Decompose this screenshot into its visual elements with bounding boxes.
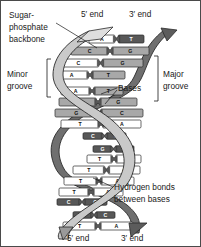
major-groove-line1: Major [163, 69, 184, 79]
label-minor-groove: Minor groove [7, 59, 51, 97]
base-pair: CG [58, 59, 143, 67]
base-letter: A [74, 88, 78, 94]
base-letter: A [120, 121, 124, 127]
dna-diagram-svg: ATCGCGATATCGGCTACGGCTATATATACGGCTA Sugar… [1, 1, 200, 246]
hydrogen-bond [79, 199, 85, 204]
hydrogen-bond [101, 133, 107, 138]
label-major-groove: Major groove [154, 56, 189, 101]
label-five-prime-end-bottom: 5′ end [67, 233, 90, 243]
sugar-phosphate-line2: phosphate [9, 22, 48, 32]
base-letter: C [88, 48, 92, 54]
hydrogen-bond [111, 156, 117, 163]
base-letter: C [77, 60, 81, 66]
base-letter: G [116, 99, 120, 105]
hydrogen-bond [110, 146, 116, 151]
sugar-phosphate-line3: backbone [9, 34, 45, 44]
label-five-prime-end-top: 5′ end [81, 9, 104, 19]
hydrogen-bond [89, 88, 95, 95]
minor-groove-line1: Minor [7, 69, 28, 79]
bases-text: Bases [118, 83, 141, 93]
hydrogen-bonds-line1: Hydrogen bonds [114, 182, 175, 192]
hydrogen-bond [113, 36, 119, 43]
hydrogen-bond [95, 223, 101, 230]
hydrogen-bond [107, 48, 113, 55]
hydrogen-bond [91, 212, 97, 217]
dna-helix-figure: ATCGCGATATCGGCTACGGCTATATATACGGCTA Sugar… [0, 0, 201, 247]
base-letter: C [67, 199, 71, 205]
base-letter: A [70, 72, 74, 78]
sugar-phosphate-line1: Sugar- [9, 10, 34, 20]
hydrogen-bonds-line2: between bases [114, 194, 170, 204]
base-letter: G [128, 48, 132, 54]
base-letter: G [74, 110, 78, 116]
base-letter: G [100, 146, 104, 152]
label-three-prime-end-top: 3′ end [129, 9, 152, 19]
major-groove-line2: groove [163, 81, 189, 91]
major-groove-brace [154, 56, 158, 101]
base-letter: C [103, 212, 107, 218]
hydrogen-bond [103, 167, 109, 174]
hydrogen-bond [97, 60, 103, 67]
minor-groove-brace [47, 59, 51, 97]
hydrogen-bond [87, 72, 93, 79]
base-pair: CG [71, 47, 149, 55]
base-letter: C [91, 133, 95, 139]
base-letter: G [121, 60, 125, 66]
minor-groove-line2: groove [7, 81, 33, 91]
base-letter: A [114, 223, 118, 229]
base-letter: C [120, 110, 124, 116]
label-three-prime-end-bottom: 3′ end [121, 233, 144, 243]
base-pair: AT [55, 71, 125, 79]
